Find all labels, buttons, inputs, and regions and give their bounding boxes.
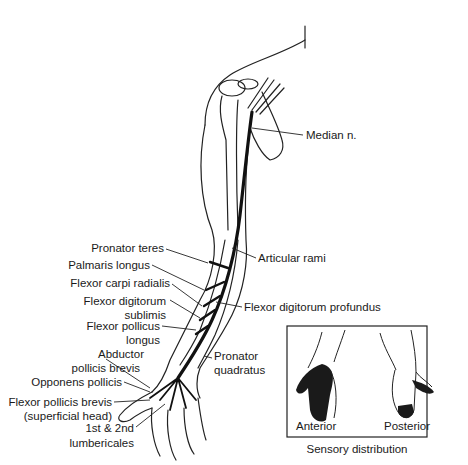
label-flexor-digitorum-profundus: Flexor digitorum profundus (244, 301, 381, 314)
brachial-plexus (248, 78, 284, 114)
label-palmaris-longus: Palmaris longus (50, 259, 150, 272)
hand-branches (150, 378, 196, 410)
label-median-nerve: Median n. (306, 129, 357, 142)
inset-label-posterior: Posterior (384, 420, 430, 433)
label-articular-rami: Articular rami (258, 252, 326, 265)
label-opponens-pollicis: Opponens pollicis (10, 376, 122, 389)
thumb (119, 392, 152, 422)
humerus-shaft (220, 96, 228, 230)
label-pronator-quadratus-1: Pronator (214, 350, 258, 363)
label-flexor-pollicus-longus-2: longus (60, 334, 160, 347)
inset-caption: Sensory distribution (287, 443, 427, 456)
label-flexor-pollicis-brevis-1: Flexor pollicis brevis (0, 396, 112, 409)
acromion (238, 79, 258, 89)
median-nerve-trunk (178, 112, 252, 378)
label-flexor-digitorum-sublimis-1: Flexor digitorum (60, 295, 166, 308)
label-lumbricales-1: 1st & 2nd (40, 422, 134, 435)
fingers (151, 398, 206, 460)
label-flexor-pollicus-longus-1: Flexor pollicus (60, 320, 160, 333)
label-pronator-teres: Pronator teres (60, 242, 164, 255)
arm-lateral-contour (152, 125, 214, 392)
label-abductor-pollicis-brevis-2: pollicis brevis (20, 362, 140, 375)
inset-label-anterior: Anterior (296, 420, 336, 433)
label-pronator-quadratus-2: quadratus (214, 364, 265, 377)
humerus-shaft-medial (237, 100, 239, 230)
label-abductor-pollicis-brevis-1: Abductor (40, 348, 144, 361)
label-flexor-carpi-radialis: Flexor carpi radialis (40, 277, 170, 290)
label-lumbricales-2: lumbericales (40, 437, 134, 450)
scapula (250, 92, 283, 160)
